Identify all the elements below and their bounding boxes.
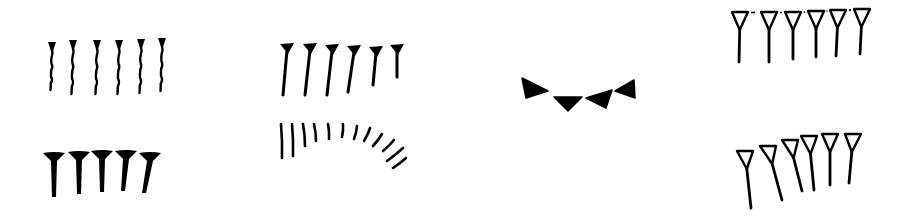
wedge-glyph-icon bbox=[280, 43, 294, 95]
outlined-wedge-icon bbox=[801, 136, 817, 190]
outlined-wedge-icon bbox=[761, 12, 782, 62]
bold-wedge-group bbox=[43, 150, 161, 197]
cuneiform-canvas bbox=[0, 0, 911, 216]
outlined-wedge-group bbox=[732, 9, 870, 62]
wedge-glyph-icon bbox=[139, 152, 161, 193]
wedge-glyph-icon bbox=[137, 39, 145, 93]
outlined-wedge-arc-group bbox=[737, 134, 861, 208]
stroke-glyph-icon bbox=[342, 124, 343, 137]
stroke-glyph-icon bbox=[281, 124, 282, 158]
wedge-glyph-icon bbox=[69, 40, 77, 94]
horizontal-wedge-icon bbox=[554, 97, 582, 111]
wedge-glyph-icon bbox=[369, 46, 383, 85]
wedge-glyph-icon bbox=[115, 40, 123, 94]
wedge-glyph-icon bbox=[325, 44, 339, 95]
stroke-glyph-icon bbox=[328, 124, 329, 139]
wedge-glyph-icon bbox=[347, 45, 361, 92]
horizontal-wedge-group bbox=[522, 78, 635, 111]
outlined-wedge-icon bbox=[782, 140, 802, 191]
arc-stroke-group bbox=[281, 124, 406, 168]
outlined-wedge-icon bbox=[760, 146, 782, 200]
wedge-glyph-icon bbox=[390, 44, 404, 77]
stroke-glyph-icon bbox=[364, 128, 370, 141]
outlined-wedge-icon bbox=[737, 151, 753, 208]
outlined-wedge-icon bbox=[822, 134, 838, 185]
filled-wedge-group bbox=[280, 43, 404, 95]
horizontal-wedge-icon bbox=[615, 80, 635, 98]
wedge-glyph-icon bbox=[115, 150, 137, 191]
wedge-glyph-icon bbox=[43, 152, 65, 197]
wedge-glyph-icon bbox=[68, 151, 90, 194]
stroke-glyph-icon bbox=[292, 124, 293, 156]
stroke-glyph-icon bbox=[383, 140, 394, 151]
wedge-glyph-icon bbox=[158, 38, 166, 91]
horizontal-wedge-icon bbox=[522, 78, 548, 98]
outlined-wedge-icon bbox=[785, 12, 805, 60]
stroke-glyph-icon bbox=[387, 148, 403, 161]
horizontal-wedge-icon bbox=[586, 90, 612, 108]
outlined-wedge-icon bbox=[830, 10, 851, 57]
stroke-glyph-icon bbox=[354, 126, 357, 139]
outlined-wedge-icon bbox=[854, 9, 870, 54]
stroke-glyph-icon bbox=[314, 124, 316, 141]
wedge-glyph-icon bbox=[91, 150, 113, 192]
cuneiform-figure bbox=[0, 0, 911, 216]
wedge-glyph-icon bbox=[48, 42, 56, 90]
wedge-glyph-icon bbox=[303, 43, 317, 95]
wedge-glyph-icon bbox=[93, 40, 101, 94]
stroke-glyph-icon bbox=[303, 124, 305, 146]
stroke-glyph-icon bbox=[373, 134, 382, 146]
outlined-wedge-icon bbox=[808, 11, 827, 58]
stroke-glyph-icon bbox=[393, 158, 406, 168]
outlined-wedge-icon bbox=[845, 134, 861, 183]
outlined-wedge-icon bbox=[732, 12, 758, 62]
thin-wedge-group bbox=[48, 38, 166, 94]
